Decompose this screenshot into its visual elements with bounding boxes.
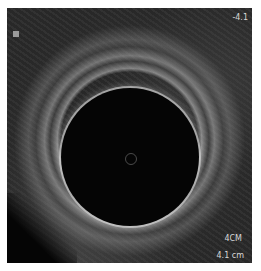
shadow-region [7,193,77,263]
depth-label-bottom: 4.1 cm [217,252,244,260]
orientation-marker-icon [13,31,19,37]
center-marker-icon [125,153,137,165]
ultrasound-image: -4.1 4CM 4.1 cm [7,8,252,263]
depth-label-cm: 4CM [224,235,242,243]
depth-label-top: -4.1 [232,14,248,22]
